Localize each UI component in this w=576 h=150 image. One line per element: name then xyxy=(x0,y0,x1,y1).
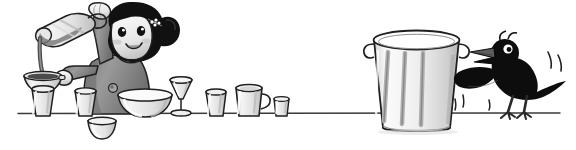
shot-glass xyxy=(274,97,289,116)
tumbler-cup-1 xyxy=(32,86,54,116)
tumbler-cup-3 xyxy=(206,89,226,116)
can-ground-shadow xyxy=(378,129,458,135)
girl-eye-left xyxy=(118,27,126,37)
goblet-base xyxy=(171,110,191,116)
large-bowl-rim xyxy=(118,89,172,101)
girl-face xyxy=(111,9,153,60)
cartoon-scene-svg xyxy=(0,0,576,150)
girl-eye-right xyxy=(137,26,145,36)
illustration-canvas: Girl pouring liquid through a strainer b… xyxy=(0,0,576,150)
tumbler-cup-2 xyxy=(75,88,96,116)
